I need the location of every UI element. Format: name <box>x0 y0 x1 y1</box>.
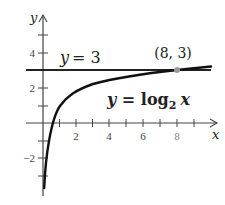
x-tick-label-4: 4 <box>106 130 112 142</box>
curve-label: y = log2x <box>106 90 190 112</box>
hline-label: y= 3 <box>59 48 101 67</box>
log2-curve <box>44 67 211 189</box>
x-tick-label-8: 8 <box>174 130 180 142</box>
y-axis-label: y <box>29 10 38 25</box>
x-tick-label-6: 6 <box>140 130 146 142</box>
log-chart: 2 4 6 8 4 2 −2 y x y= 3 (8, 3) y = log2x <box>0 0 225 205</box>
y-tick-label-4: 4 <box>30 47 36 59</box>
y-tick-label-neg2: −2 <box>23 152 35 164</box>
x-tick-label-2: 2 <box>73 130 79 142</box>
intersection-point <box>174 67 180 73</box>
x-axis-label: x <box>212 127 220 142</box>
point-label: (8, 3) <box>154 45 192 61</box>
y-tick-label-2: 2 <box>30 82 36 94</box>
